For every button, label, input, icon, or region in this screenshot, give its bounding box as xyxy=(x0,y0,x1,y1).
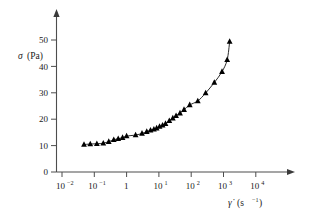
chart-canvas: 0 10 20 30 40 50 σ (Pa) 10 −2 xyxy=(0,0,309,219)
x-tick-label-1e-2-sup: −2 xyxy=(67,179,74,186)
x-tick-label-1e1-sup: 1 xyxy=(164,179,167,186)
y-tick-label-20: 20 xyxy=(39,114,49,124)
x-tick-label-1: 1 xyxy=(124,181,129,191)
x-tick-label-1e2-sup: 2 xyxy=(197,179,200,186)
x-tick-label-1e-2-base: 10 xyxy=(56,181,66,191)
x-tick-label-1e-1-sup: −1 xyxy=(99,179,106,186)
x-tick-label-1-base: 1 xyxy=(124,181,129,191)
y-tick-label-50: 50 xyxy=(39,35,49,45)
x-tick-label-1e2-base: 10 xyxy=(186,181,196,191)
x-axis-title-units-sup: −1 xyxy=(252,196,259,203)
x-tick-label-1e4-base: 10 xyxy=(250,181,259,191)
y-axis-title: σ (Pa) xyxy=(18,51,43,62)
y-tick-label-0: 0 xyxy=(44,167,49,177)
y-tick-label-10: 10 xyxy=(39,141,49,151)
flow-curve-figure: 0 10 20 30 40 50 σ (Pa) 10 −2 xyxy=(0,0,309,219)
x-tick-label-1e1-base: 10 xyxy=(153,181,163,191)
y-axis-title-units: (Pa) xyxy=(27,51,43,62)
x-tick-label-1e3-sup: 3 xyxy=(229,179,232,186)
y-tick-label-40: 40 xyxy=(39,62,49,72)
x-axis-title-units-close: ) xyxy=(259,198,262,209)
x-axis-title-units-base: (s xyxy=(237,198,244,209)
y-tick-label-30: 30 xyxy=(39,88,49,98)
x-tick-label-1e3-base: 10 xyxy=(218,181,228,191)
y-axis-title-symbol: σ xyxy=(18,51,23,61)
x-tick-label-1e4-sup: 4 xyxy=(261,179,264,186)
x-tick-label-1e-1-base: 10 xyxy=(88,181,98,191)
